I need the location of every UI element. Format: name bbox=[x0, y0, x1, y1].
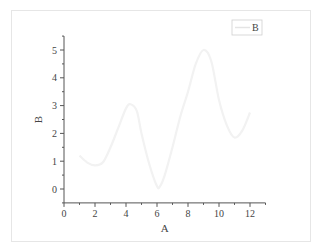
x-tick-label: 8 bbox=[186, 208, 191, 219]
y-tick-label: 0 bbox=[52, 184, 57, 195]
x-axis-title: A bbox=[161, 222, 169, 234]
x-tick-label: 6 bbox=[155, 208, 160, 219]
series-line-B bbox=[80, 50, 251, 188]
x-tick-label: 0 bbox=[62, 208, 67, 219]
legend-label: B bbox=[252, 22, 259, 33]
y-tick-label: 5 bbox=[52, 45, 57, 56]
y-tick-label: 1 bbox=[52, 156, 57, 167]
x-tick-label: 12 bbox=[245, 208, 255, 219]
plot-area bbox=[80, 50, 251, 188]
line-chart: 024681012012345AB B bbox=[0, 0, 312, 250]
legend: B bbox=[232, 20, 262, 35]
x-tick-label: 10 bbox=[214, 208, 224, 219]
y-tick-label: 4 bbox=[52, 72, 57, 83]
axes: 024681012012345AB bbox=[32, 36, 266, 234]
y-axis-title: B bbox=[32, 116, 44, 123]
y-tick-label: 2 bbox=[52, 128, 57, 139]
x-tick-label: 2 bbox=[93, 208, 98, 219]
y-tick-label: 3 bbox=[52, 100, 57, 111]
x-tick-label: 4 bbox=[124, 208, 129, 219]
